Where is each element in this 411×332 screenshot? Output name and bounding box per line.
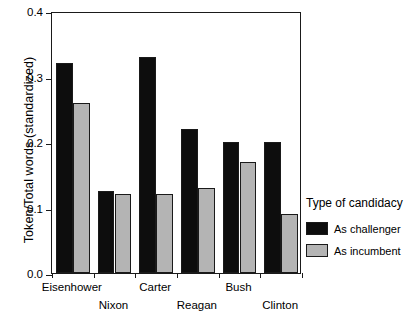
bar [73,103,90,273]
bar [139,57,156,273]
bar [198,188,215,273]
bar [98,191,115,273]
bar [115,194,132,273]
bar [264,142,281,273]
y-tick-label: 0.3 [27,72,43,84]
bar [156,194,173,273]
x-tick [135,273,136,278]
legend-item-label: As incumbent [334,245,401,257]
bar [281,214,298,273]
y-tick-label: 0.0 [27,268,43,280]
x-tick [52,273,53,278]
y-axis-title: Token/Total words (standardized) [22,15,36,285]
x-tick [302,273,303,278]
y-tick-label: 0.2 [27,137,43,149]
legend: Type of candidacy As challengerAs incumb… [306,196,403,266]
bar-group-container [52,13,300,273]
legend-swatch-icon [306,222,328,235]
y-tick-label: 0.4 [27,6,43,18]
legend-entries: As challengerAs incumbent [306,222,403,257]
x-axis-label-reagan: Reagan [177,299,217,311]
x-axis-label-clinton: Clinton [262,299,298,311]
x-axis-label-nixon: Nixon [99,299,128,311]
legend-swatch-icon [306,244,328,257]
bar [223,142,240,273]
x-tick [260,273,261,278]
legend-item-label: As challenger [334,223,401,235]
bar-chart-figure: Token/Total words (standardized) 0.00.10… [0,0,411,332]
bar [240,162,257,273]
bar [181,129,198,273]
y-tick-label: 0.1 [27,203,43,215]
x-tick [94,273,95,278]
x-axis-label-carter: Carter [139,281,171,293]
legend-title: Type of candidacy [306,196,403,210]
x-tick [177,273,178,278]
bar [56,63,73,273]
legend-item: As challenger [306,222,403,235]
legend-item: As incumbent [306,244,403,257]
x-tick [219,273,220,278]
x-axis-label-eisenhower: Eisenhower [42,281,102,293]
x-axis-label-bush: Bush [225,281,251,293]
plot-area: 0.00.10.20.30.4 [51,12,301,274]
